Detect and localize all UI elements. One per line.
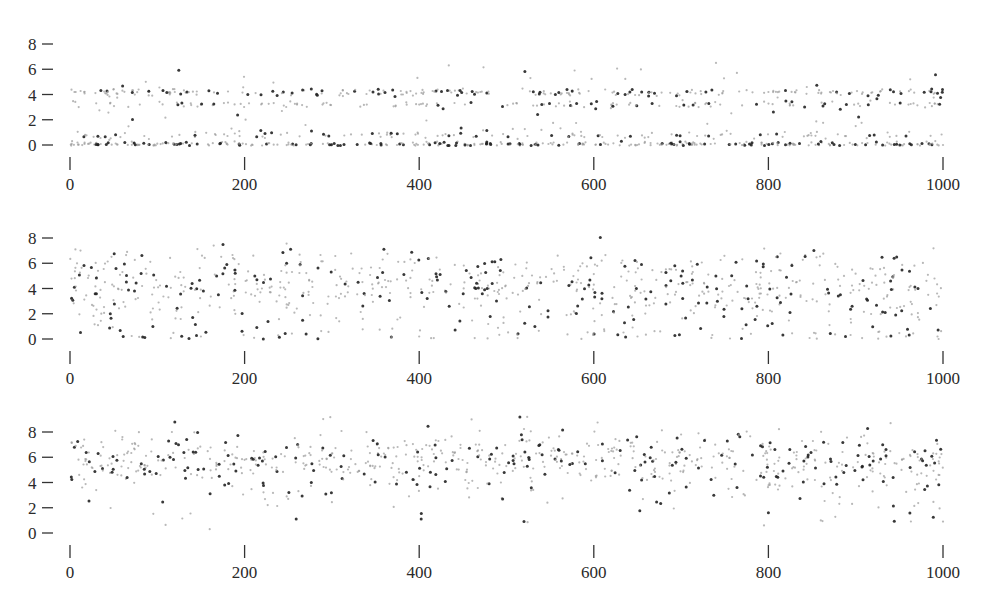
x-tick-label: 800	[756, 563, 782, 582]
x-tick-label: 400	[406, 175, 432, 194]
y-tick: 0	[28, 524, 53, 543]
x-tick: 200	[232, 157, 258, 194]
data-points	[70, 415, 944, 530]
scatter-plot-1: 0246802004006008001000	[0, 0, 990, 200]
y-tick: 4	[28, 474, 53, 493]
y-tick-label: 0	[28, 136, 37, 155]
x-tick: 0	[66, 545, 75, 582]
x-tick: 400	[406, 545, 432, 582]
x-tick: 600	[581, 351, 607, 388]
x-tick-label: 0	[66, 369, 75, 388]
x-tick-label: 400	[406, 563, 432, 582]
y-tick-label: 6	[28, 60, 37, 79]
x-tick: 800	[756, 545, 782, 582]
x-tick: 200	[232, 545, 258, 582]
y-tick: 2	[28, 499, 53, 518]
x-tick: 1000	[926, 351, 960, 388]
x-tick-label: 1000	[926, 175, 960, 194]
x-tick: 1000	[926, 157, 960, 194]
y-tick: 4	[28, 280, 53, 299]
y-tick: 4	[28, 86, 53, 105]
scatter-panel-2: 0246802004006008001000	[0, 194, 990, 394]
y-tick-label: 0	[28, 330, 37, 349]
x-tick-label: 0	[66, 175, 75, 194]
y-tick-label: 4	[28, 474, 37, 493]
y-tick: 6	[28, 60, 53, 79]
x-tick-label: 200	[232, 369, 258, 388]
scatter-plot-2: 0246802004006008001000	[0, 194, 990, 394]
y-tick-label: 4	[28, 280, 37, 299]
y-tick: 6	[28, 254, 53, 273]
x-tick: 400	[406, 351, 432, 388]
x-tick: 800	[756, 351, 782, 388]
x-tick-label: 1000	[926, 369, 960, 388]
x-tick-label: 200	[232, 175, 258, 194]
x-tick-label: 400	[406, 369, 432, 388]
x-tick: 200	[232, 351, 258, 388]
y-tick: 8	[28, 229, 53, 248]
y-tick: 8	[28, 423, 53, 442]
y-tick-label: 2	[28, 305, 37, 324]
y-tick: 6	[28, 448, 53, 467]
y-tick-label: 2	[28, 499, 37, 518]
scatter-plot-3: 0246802004006008001000	[0, 388, 990, 588]
y-tick-label: 0	[28, 524, 37, 543]
y-tick: 8	[28, 35, 53, 54]
x-tick-label: 0	[66, 563, 75, 582]
x-tick: 1000	[926, 545, 960, 582]
y-tick: 0	[28, 136, 53, 155]
data-points	[69, 236, 942, 341]
y-tick: 2	[28, 111, 53, 130]
data-points	[70, 62, 944, 147]
x-tick: 600	[581, 157, 607, 194]
x-tick-label: 800	[756, 175, 782, 194]
y-tick-label: 6	[28, 448, 37, 467]
y-tick-label: 8	[28, 229, 37, 248]
y-tick-label: 2	[28, 111, 37, 130]
y-tick-label: 8	[28, 423, 37, 442]
y-tick: 0	[28, 330, 53, 349]
x-tick: 600	[581, 545, 607, 582]
x-tick-label: 200	[232, 563, 258, 582]
x-tick-label: 600	[581, 563, 607, 582]
x-tick: 0	[66, 351, 75, 388]
x-tick: 400	[406, 157, 432, 194]
x-tick-label: 600	[581, 369, 607, 388]
y-tick-label: 8	[28, 35, 37, 54]
x-tick-label: 800	[756, 369, 782, 388]
x-tick-label: 1000	[926, 563, 960, 582]
y-tick: 2	[28, 305, 53, 324]
y-tick-label: 4	[28, 86, 37, 105]
y-tick-label: 6	[28, 254, 37, 273]
x-tick: 0	[66, 157, 75, 194]
x-tick-label: 600	[581, 175, 607, 194]
scatter-panel-1: 0246802004006008001000	[0, 0, 990, 200]
x-tick: 800	[756, 157, 782, 194]
scatter-panel-3: 0246802004006008001000	[0, 388, 990, 588]
